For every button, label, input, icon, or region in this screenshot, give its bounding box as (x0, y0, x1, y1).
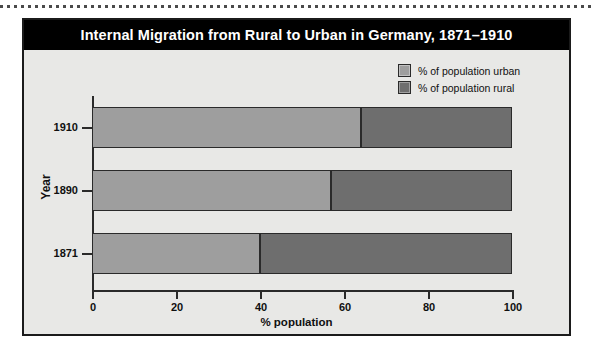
plot-area: 1910 1890 1871 0 20 40 60 80 100 % popul… (24, 20, 569, 334)
x-tick-label-100: 100 (493, 301, 533, 313)
bar-segment-urban (92, 170, 331, 211)
x-tick (512, 292, 514, 299)
bar-segment-rural (361, 107, 512, 148)
bar-segment-rural (260, 233, 512, 274)
x-tick (92, 292, 94, 299)
x-tick (428, 292, 430, 299)
bar-row (92, 170, 512, 211)
bar-row (92, 233, 512, 274)
top-dotted-rule (0, 5, 593, 8)
x-axis-line (92, 290, 514, 292)
bar-row (92, 107, 512, 148)
x-tick-label-60: 60 (325, 301, 365, 313)
bar-segment-urban (92, 107, 361, 148)
y-tick-label-1910: 1910 (32, 121, 78, 133)
bar-segment-rural (331, 170, 512, 211)
bar-segment-urban (92, 233, 260, 274)
x-tick (176, 292, 178, 299)
x-tick-label-80: 80 (409, 301, 449, 313)
x-tick (260, 292, 262, 299)
y-tick (82, 190, 93, 192)
y-tick (82, 127, 93, 129)
y-tick-label-1871: 1871 (32, 247, 78, 259)
y-axis-title: Year (39, 157, 53, 217)
x-axis-title: % population (24, 316, 569, 328)
x-tick-label-0: 0 (73, 301, 113, 313)
chart-figure: Internal Migration from Rural to Urban i… (22, 18, 571, 336)
x-tick-label-40: 40 (241, 301, 281, 313)
y-tick (82, 253, 93, 255)
x-tick-label-20: 20 (157, 301, 197, 313)
x-tick (344, 292, 346, 299)
